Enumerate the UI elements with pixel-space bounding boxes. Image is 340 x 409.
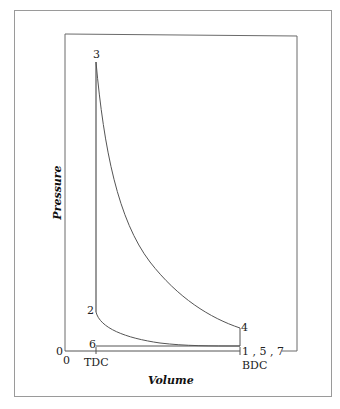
x-origin-label: 0 (63, 355, 70, 366)
process-1-2 (96, 312, 240, 346)
point-label-1-5-7: 1 , 5 , 7 (242, 346, 284, 357)
point-label-6: 6 (89, 339, 96, 350)
process-3-4 (96, 62, 240, 328)
bdc-label: BDC (242, 360, 267, 371)
plot-border (65, 34, 297, 351)
x-axis-title: Volume (148, 374, 194, 387)
tdc-label: TDC (84, 357, 109, 368)
point-label-3: 3 (93, 49, 100, 60)
point-label-2: 2 (87, 305, 94, 316)
y-origin-label: 0 (56, 346, 63, 357)
y-axis-title: Pressure (51, 165, 64, 219)
point-label-4: 4 (241, 322, 248, 333)
